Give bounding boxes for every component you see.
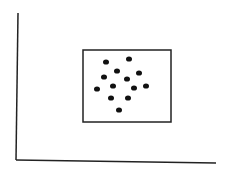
data-point-dot [110,83,116,88]
data-point-dot [143,83,149,88]
data-point-dot [103,59,109,64]
data-point-dot [125,95,131,100]
data-point-dot [136,70,142,75]
data-point-dot [114,68,120,73]
data-point-dot [116,107,122,112]
x-axis-line [16,160,216,163]
data-point-dot [101,74,107,79]
data-point-dot [108,95,114,100]
data-point-dot [131,85,137,90]
y-axis-line [16,13,18,160]
data-point-dot [94,86,100,91]
data-point-dot [124,76,130,81]
data-points-group [94,56,149,112]
data-point-dot [126,56,132,61]
diagram-canvas [0,0,232,171]
